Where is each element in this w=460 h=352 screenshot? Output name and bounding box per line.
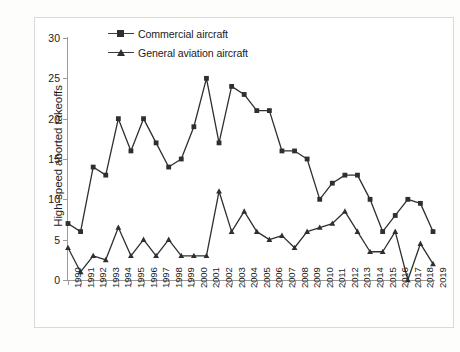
chart-figure: High-speed aborted takeoffs 051015202530…: [0, 0, 460, 352]
y-tick-mark: [63, 78, 67, 79]
data-point-triangle: [418, 241, 424, 246]
data-point-triangle: [65, 245, 71, 250]
y-tick-mark: [63, 240, 67, 241]
data-point-square: [305, 157, 310, 162]
series-line: [68, 191, 433, 280]
data-point-square: [418, 201, 423, 206]
data-point-triangle: [342, 208, 348, 213]
data-point-square: [66, 221, 71, 226]
data-point-square: [129, 149, 134, 154]
data-point-square: [78, 229, 83, 234]
data-point-square: [103, 173, 108, 178]
data-point-square: [242, 92, 247, 97]
data-point-square: [393, 213, 398, 218]
data-point-square: [154, 140, 159, 145]
data-point-square: [141, 116, 146, 121]
data-point-triangle: [141, 237, 147, 242]
data-point-square: [116, 116, 121, 121]
data-point-square: [179, 157, 184, 162]
data-point-square: [431, 229, 436, 234]
data-point-square: [91, 165, 96, 170]
data-point-square: [380, 229, 385, 234]
y-tick-mark: [63, 280, 67, 281]
data-point-square: [204, 76, 209, 81]
data-point-square: [166, 165, 171, 170]
data-point-triangle: [279, 233, 285, 238]
series-commercial: [66, 76, 436, 234]
data-point-square: [229, 84, 234, 89]
data-point-square: [292, 149, 297, 154]
data-point-triangle: [405, 277, 411, 282]
data-point-square: [254, 108, 259, 113]
data-point-square: [317, 197, 322, 202]
data-point-triangle: [392, 229, 398, 234]
y-tick-mark: [63, 159, 67, 160]
data-point-square: [267, 108, 272, 113]
data-point-square: [405, 197, 410, 202]
data-point-triangle: [90, 253, 96, 258]
data-point-square: [191, 124, 196, 129]
chart-series-layer: [0, 0, 460, 352]
data-point-triangle: [241, 208, 247, 213]
data-point-square: [355, 173, 360, 178]
data-point-square: [280, 149, 285, 154]
y-tick-mark: [63, 119, 67, 120]
data-point-square: [342, 173, 347, 178]
data-point-square: [217, 140, 222, 145]
data-point-square: [368, 197, 373, 202]
y-tick-mark: [63, 38, 67, 39]
data-point-triangle: [216, 188, 222, 193]
series-general-aviation: [65, 188, 436, 282]
data-point-triangle: [115, 224, 121, 229]
data-point-triangle: [166, 237, 172, 242]
y-tick-mark: [63, 199, 67, 200]
data-point-square: [330, 181, 335, 186]
series-line: [68, 78, 433, 231]
